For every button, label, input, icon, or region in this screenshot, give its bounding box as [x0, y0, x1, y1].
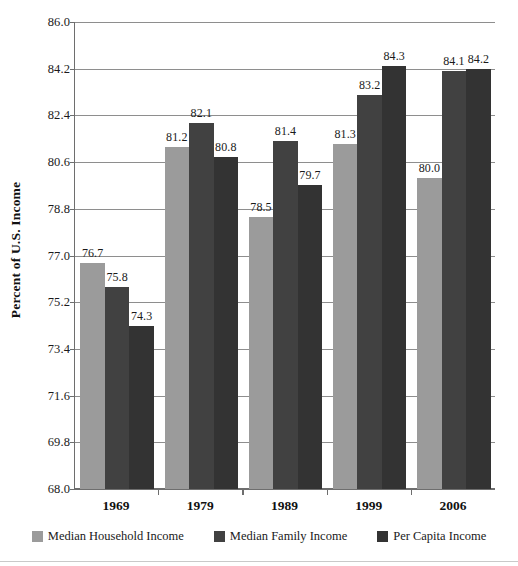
y-axis-tick-label: 80.6 — [24, 155, 70, 170]
bar — [298, 185, 323, 489]
y-axis-tick-label: 84.2 — [24, 61, 70, 76]
bar-value-label: 74.3 — [131, 309, 152, 324]
y-axis-tick-label: 78.8 — [24, 201, 70, 216]
bar — [249, 217, 274, 489]
bar-value-label: 81.2 — [166, 130, 187, 145]
bar-value-label: 83.2 — [359, 78, 380, 93]
y-axis-tick-label: 86.0 — [24, 15, 70, 30]
legend-item[interactable]: Per Capita Income — [377, 529, 486, 544]
bar — [357, 95, 382, 489]
legend-item[interactable]: Median Family Income — [214, 529, 347, 544]
bar — [442, 71, 467, 489]
y-axis-tick-label: 77.0 — [24, 248, 70, 263]
bar — [333, 144, 358, 489]
x-axis-category-label: 1999 — [355, 498, 382, 514]
plot-area: 76.775.874.381.282.180.878.581.479.781.3… — [74, 22, 495, 489]
x-axis: 19691979198919992006 — [74, 489, 495, 523]
legend-swatch-icon — [214, 531, 225, 542]
y-axis-tick-labels: 68.069.871.673.475.277.078.880.682.484.2… — [18, 22, 70, 489]
bar — [273, 141, 298, 489]
bar-value-label: 84.1 — [443, 54, 464, 69]
x-axis-category-label: 1979 — [187, 498, 214, 514]
bar-chart-figure: Percent of U.S. Income 68.069.871.673.47… — [0, 0, 518, 566]
bar-value-label: 84.3 — [383, 49, 404, 64]
y-axis-tick-label: 75.2 — [24, 295, 70, 310]
bar-value-label: 82.1 — [191, 106, 212, 121]
bar-value-label: 81.3 — [334, 127, 355, 142]
bar — [466, 69, 491, 489]
x-axis-category-label: 2006 — [439, 498, 466, 514]
bar-value-label: 80.8 — [215, 140, 236, 155]
x-axis-category-label: 1969 — [103, 498, 130, 514]
y-axis-tick-label: 73.4 — [24, 341, 70, 356]
x-axis-category-label: 1989 — [271, 498, 298, 514]
chart-legend: Median Household IncomeMedian Family Inc… — [0, 529, 518, 544]
bar-value-label: 81.4 — [275, 124, 296, 139]
bar-value-label: 84.2 — [468, 52, 489, 67]
bar-value-label: 79.7 — [299, 168, 320, 183]
y-axis-tick-label: 68.0 — [24, 482, 70, 497]
bar-value-label: 80.0 — [419, 161, 440, 176]
bar-value-label: 75.8 — [106, 270, 127, 285]
bars-layer: 76.775.874.381.282.180.878.581.479.781.3… — [75, 22, 495, 489]
bar-value-label: 76.7 — [82, 246, 103, 261]
bar — [105, 287, 130, 489]
bar — [417, 178, 442, 489]
bar — [382, 66, 407, 489]
legend-swatch-icon — [32, 531, 43, 542]
x-axis-line — [74, 489, 495, 490]
legend-label: Per Capita Income — [393, 529, 486, 544]
bar-value-label: 78.5 — [250, 200, 271, 215]
y-axis-tick-label: 71.6 — [24, 388, 70, 403]
bottom-rule — [0, 561, 518, 562]
legend-item[interactable]: Median Household Income — [32, 529, 184, 544]
bar — [214, 157, 239, 489]
bar — [189, 123, 214, 489]
legend-label: Median Household Income — [48, 529, 184, 544]
y-axis-tick-label: 82.4 — [24, 108, 70, 123]
bar — [80, 263, 105, 489]
bar — [165, 147, 190, 489]
bar — [129, 326, 154, 489]
y-axis-tick-label: 69.8 — [24, 435, 70, 450]
legend-swatch-icon — [377, 531, 388, 542]
legend-label: Median Family Income — [230, 529, 347, 544]
